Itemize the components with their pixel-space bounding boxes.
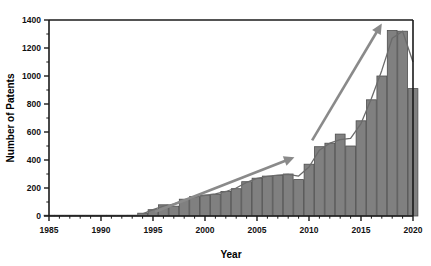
bar-2018 — [387, 31, 397, 217]
bar-2017 — [377, 76, 387, 216]
y-tick-label-200: 200 — [27, 183, 41, 193]
bar-2008 — [283, 174, 293, 216]
y-tick-label-1000: 1000 — [22, 71, 41, 81]
x-tick-label-1985: 1985 — [40, 225, 59, 235]
x-tick-label-1990: 1990 — [92, 225, 111, 235]
bar-1999 — [190, 196, 200, 216]
bar-2015 — [356, 121, 366, 216]
chart-canvas: 0200400600800100012001400 19851990199520… — [0, 0, 431, 266]
bar-2014 — [346, 146, 356, 216]
x-tick-label-1995: 1995 — [144, 225, 163, 235]
bar-2007 — [273, 175, 283, 216]
x-axis-title: Year — [220, 249, 241, 260]
bar-2000 — [200, 195, 210, 216]
bar-2001 — [211, 194, 221, 216]
y-tick-label-1200: 1200 — [22, 43, 41, 53]
y-tick-label-600: 600 — [27, 127, 41, 137]
bar-2012 — [325, 143, 335, 216]
bar-2009 — [294, 180, 304, 216]
bar-2010 — [304, 164, 314, 216]
bar-2003 — [231, 189, 241, 216]
x-tick-label-2000: 2000 — [196, 225, 215, 235]
y-tick-label-800: 800 — [27, 99, 41, 109]
x-tick-label-2010: 2010 — [300, 225, 319, 235]
x-tick-label-2015: 2015 — [352, 225, 371, 235]
y-tick-label-1400: 1400 — [22, 15, 41, 25]
x-tick-label-2005: 2005 — [248, 225, 267, 235]
bar-2006 — [263, 176, 273, 216]
y-axis-tick-labels: 0200400600800100012001400 — [22, 15, 41, 221]
bar-2011 — [315, 147, 325, 216]
x-tick-label-2020: 2020 — [404, 225, 423, 235]
y-tick-label-400: 400 — [27, 155, 41, 165]
bar-2005 — [252, 178, 262, 216]
bar-1997 — [169, 206, 179, 216]
bar-2002 — [221, 192, 231, 217]
bar-2016 — [367, 100, 377, 216]
y-axis-title: Number of Patents — [5, 73, 16, 162]
bar-2004 — [242, 182, 252, 216]
patent-growth-chart: 0200400600800100012001400 19851990199520… — [0, 0, 431, 266]
bar-2013 — [335, 134, 345, 216]
x-axis-tick-labels: 19851990199520002005201020152020 — [40, 225, 423, 235]
y-tick-label-0: 0 — [36, 211, 41, 221]
bar-2019 — [398, 31, 408, 216]
